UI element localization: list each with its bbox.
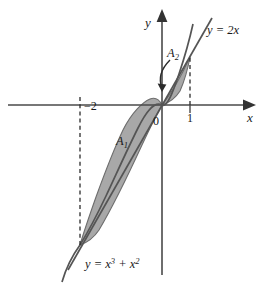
- x-axis-arrowhead: [243, 100, 256, 111]
- curve-label-cubic: y = x3 + x2: [83, 256, 140, 272]
- origin-label: 0: [153, 114, 159, 128]
- x-tick-label-minus-2: −2: [84, 99, 97, 113]
- curve-label-line: y = 2x: [205, 23, 239, 37]
- curve-label-cubic-plus: + x: [115, 257, 136, 271]
- figure-container: y x −2 1 0 A1 A2 y = 2x y = x3 + x2: [0, 0, 274, 289]
- region-label-a2-text: A: [166, 46, 175, 60]
- y-axis-label: y: [143, 15, 151, 30]
- curve-line-2x: [68, 18, 212, 270]
- x-tick-label-1: 1: [187, 111, 193, 125]
- math-plot: y x −2 1 0 A1 A2 y = 2x y = x3 + x2: [0, 0, 274, 289]
- region-label-a2: A2: [166, 46, 180, 62]
- y-axis-arrowhead: [157, 9, 168, 22]
- region-label-a1-text: A: [115, 134, 124, 148]
- curve-label-cubic-exp2: 2: [135, 256, 140, 266]
- region-label-a1-subscript: 1: [124, 140, 128, 150]
- curve-label-cubic-lhs: y = x: [83, 257, 111, 271]
- region-label-a2-subscript: 2: [175, 52, 180, 62]
- x-axis-label: x: [246, 110, 253, 125]
- a2-pointer-arrowhead: [158, 84, 167, 92]
